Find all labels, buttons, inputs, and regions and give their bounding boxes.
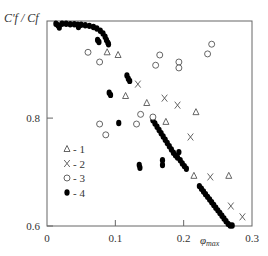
filled-circle-marker <box>176 149 181 155</box>
legend-label: - 3 <box>73 172 85 184</box>
filled-circle-marker <box>184 166 189 172</box>
x-marker <box>64 160 70 167</box>
circle-marker <box>176 59 182 65</box>
triangle-marker <box>193 109 199 115</box>
filled-circle-marker <box>230 222 235 228</box>
y-tick-label: 0.6 <box>26 220 40 232</box>
legend-item-1: - 1 <box>64 143 85 155</box>
x-tick-label: 0.3 <box>245 232 259 244</box>
x-marker <box>240 213 246 220</box>
circle-marker <box>150 114 156 120</box>
x-marker <box>175 102 181 109</box>
legend-label: - 4 <box>73 187 85 199</box>
circle-marker <box>97 59 103 65</box>
x-marker <box>135 81 141 88</box>
filled-circle-marker <box>106 41 111 47</box>
triangle-marker <box>191 172 197 178</box>
x-marker <box>188 133 194 140</box>
legend-item-3: - 3 <box>64 172 85 184</box>
x-marker <box>208 173 214 180</box>
x-tick-label: 0.1 <box>108 232 122 244</box>
circle-marker <box>209 41 215 47</box>
circle-marker <box>138 111 144 117</box>
circle-marker <box>205 51 211 57</box>
triangle-marker <box>163 118 169 124</box>
filled-circle-marker <box>127 78 132 84</box>
triangle-marker <box>123 92 129 98</box>
circle-marker <box>97 121 103 127</box>
x-tick-label: 0 <box>44 232 50 244</box>
x-axis-label: φmax <box>200 234 220 248</box>
x-tick-label: 0.2 <box>177 232 191 244</box>
triangle-marker <box>64 146 70 152</box>
triangle-marker <box>104 49 110 55</box>
y-tick-label: 0.8 <box>26 112 40 124</box>
circle-marker <box>64 175 70 181</box>
circle-marker <box>157 52 163 58</box>
legend-item-2: - 2 <box>64 158 85 170</box>
y-axis-label: C'f / Cf <box>4 11 40 25</box>
triangle-marker <box>226 172 232 178</box>
series-2 <box>135 81 245 221</box>
series-3 <box>85 41 215 138</box>
circle-marker <box>134 121 140 127</box>
triangle-marker <box>144 100 150 106</box>
legend-label: - 2 <box>73 158 85 170</box>
legend-item-4: - 4 <box>64 187 85 199</box>
circle-marker <box>85 49 91 55</box>
triangle-marker <box>115 51 121 57</box>
series-1 <box>104 49 232 179</box>
x-marker <box>162 95 168 102</box>
x-marker <box>228 203 234 210</box>
circle-marker <box>176 65 182 71</box>
filled-circle-marker <box>64 189 69 195</box>
axis-tick-labels: 00.10.20.30.60.8 <box>26 112 259 244</box>
legend-label: - 1 <box>73 143 85 155</box>
scatter-chart: 00.10.20.30.60.8 C'f / Cf φmax - 1- 2- 3… <box>0 0 268 256</box>
filled-circle-marker <box>116 120 121 126</box>
filled-circle-marker <box>160 162 165 168</box>
filled-circle-marker <box>96 39 101 45</box>
filled-circle-marker <box>137 165 142 171</box>
filled-circle-marker <box>108 92 113 98</box>
legend: - 1- 2- 3- 4 <box>64 143 85 199</box>
circle-marker <box>103 132 109 138</box>
circle-marker <box>153 62 159 68</box>
